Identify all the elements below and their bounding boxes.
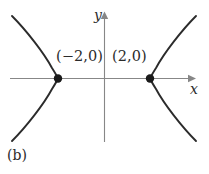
left-vertex-label: (−2,0): [56, 49, 103, 64]
right-vertex-label: (2,0): [112, 49, 147, 64]
hyperbola-figure: (−2,0) (2,0) y x (b): [0, 0, 209, 174]
vertex-point-left: [54, 74, 62, 82]
y-axis-label: y: [94, 8, 102, 22]
x-axis-label: x: [190, 82, 198, 96]
figure-caption: (b): [7, 148, 27, 162]
vertex-point-right: [146, 74, 154, 82]
figure-canvas: [0, 0, 209, 174]
